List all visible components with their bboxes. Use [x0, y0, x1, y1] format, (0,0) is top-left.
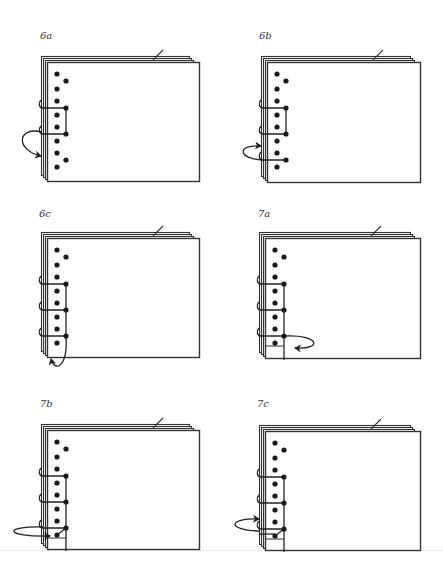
stitch-hole [63, 131, 68, 136]
stitch-hole [54, 274, 59, 279]
stitch-hole [272, 300, 277, 305]
stitch-hole [272, 455, 277, 460]
front-sheet [268, 63, 421, 183]
stitch-hole [54, 150, 59, 155]
arrow-thread-loop [22, 131, 42, 156]
front-sheet [48, 239, 200, 358]
stitch-hole [54, 518, 59, 523]
stitch-hole [63, 499, 68, 504]
stitch-hole [281, 526, 286, 531]
stitch-hole [272, 481, 277, 486]
stitch-hole [54, 138, 59, 143]
stitch-hole [54, 124, 59, 129]
stitch-hole [274, 138, 279, 143]
stitch-hole [281, 447, 286, 452]
stitch-hole [63, 105, 68, 110]
stitch-hole [272, 493, 277, 498]
stitch-hole [274, 124, 279, 129]
front-sheet [266, 432, 421, 551]
stitch-hole [63, 157, 68, 162]
stitch-hole [272, 340, 277, 345]
stitch-hole [274, 86, 279, 91]
stitch-hole [274, 112, 279, 117]
front-sheet [266, 239, 421, 359]
stitch-hole [281, 281, 286, 286]
stitch-hole [281, 500, 286, 505]
stitch-hole [63, 446, 68, 451]
stitch-hole [63, 473, 68, 478]
stitch-hole [54, 506, 59, 511]
stitch-hole [283, 105, 288, 110]
stitch-hole [272, 314, 277, 319]
stitch-hole [54, 492, 59, 497]
stitch-hole [272, 467, 277, 472]
stitch-hole [54, 262, 59, 267]
stitch-hole [272, 288, 277, 293]
stitch-hole [281, 474, 286, 479]
stitch-hole [54, 71, 59, 76]
stitch-hole [54, 247, 59, 252]
stitch-hole [54, 314, 59, 319]
stitch-hole [272, 262, 277, 267]
stitch-hole [54, 112, 59, 117]
stitch-hole [54, 326, 59, 331]
front-sheet [48, 431, 200, 550]
stitch-hole [272, 247, 277, 252]
stitch-hole [274, 164, 279, 169]
stitch-hole [54, 98, 59, 103]
stitch-hole [54, 340, 59, 345]
stitch-hole [63, 254, 68, 259]
stitch-hole [283, 131, 288, 136]
stitch-hole [272, 274, 277, 279]
stitch-hole [54, 466, 59, 471]
stitch-hole [54, 532, 59, 537]
stitch-hole [54, 86, 59, 91]
front-sheet [48, 63, 200, 182]
stitch-hole [272, 533, 277, 538]
stitch-hole [63, 525, 68, 530]
stitch-hole [272, 507, 277, 512]
stitch-hole [63, 307, 68, 312]
stitch-hole [272, 326, 277, 331]
stitch-hole [281, 254, 286, 259]
stitch-hole [281, 333, 286, 338]
stitch-hole [274, 71, 279, 76]
stitch-hole [272, 440, 277, 445]
stitch-hole [274, 98, 279, 103]
stitch-hole [63, 281, 68, 286]
stitch-hole [63, 78, 68, 83]
stitch-hole [283, 157, 288, 162]
arrow-thread-spine-loop [235, 519, 259, 531]
stitch-hole [54, 300, 59, 305]
stitch-hole [54, 480, 59, 485]
stitch-hole [54, 439, 59, 444]
stitch-hole [54, 164, 59, 169]
stitch-hole [54, 288, 59, 293]
stitch-hole [63, 333, 68, 338]
stitch-hole [283, 78, 288, 83]
stitch-hole [274, 150, 279, 155]
stitch-hole [272, 519, 277, 524]
stitch-diagram-drawing [0, 0, 443, 578]
stitch-hole [281, 307, 286, 312]
stitch-hole [54, 454, 59, 459]
